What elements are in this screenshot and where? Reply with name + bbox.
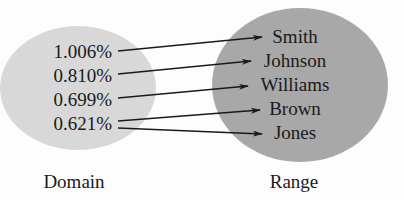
range-value: Smith xyxy=(272,26,318,47)
range-value: Williams xyxy=(261,74,330,95)
range-value: Johnson xyxy=(264,50,327,71)
mapping-diagram: 1.006% 0.810% 0.699% 0.621% Smith Johnso… xyxy=(0,0,404,200)
range-label: Range xyxy=(270,171,319,192)
domain-label: Domain xyxy=(43,171,105,192)
range-value: Brown xyxy=(269,98,321,119)
domain-value: 0.621% xyxy=(53,113,112,134)
domain-value: 1.006% xyxy=(53,41,112,62)
domain-value: 0.810% xyxy=(53,65,112,86)
domain-value: 0.699% xyxy=(53,89,112,110)
range-value: Jones xyxy=(274,122,316,143)
